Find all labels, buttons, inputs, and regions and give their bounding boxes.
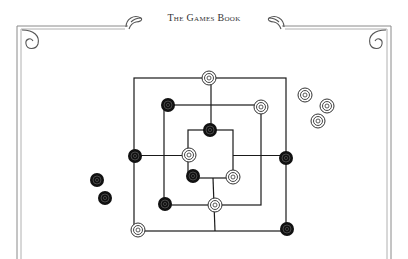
board-black-piece[interactable] <box>161 98 175 112</box>
board-black-piece[interactable] <box>280 222 294 236</box>
book-page: The Games Book <box>0 0 408 259</box>
board-white-piece[interactable] <box>131 223 145 237</box>
morris-board <box>0 0 408 259</box>
board-black-piece[interactable] <box>203 123 217 137</box>
board-white-piece[interactable] <box>182 148 196 162</box>
spare-white-piece[interactable] <box>298 88 312 102</box>
board-black-piece[interactable] <box>158 197 172 211</box>
spare-black-piece[interactable] <box>90 173 104 187</box>
board-black-piece[interactable] <box>186 169 200 183</box>
board-black-piece[interactable] <box>279 151 293 165</box>
spare-white-piece[interactable] <box>320 99 334 113</box>
board-white-piece[interactable] <box>208 198 222 212</box>
spare-black-piece[interactable] <box>98 191 112 205</box>
spare-white-piece[interactable] <box>311 114 325 128</box>
board-white-piece[interactable] <box>254 100 268 114</box>
board-white-piece[interactable] <box>226 170 240 184</box>
board-white-piece[interactable] <box>202 71 216 85</box>
board-black-piece[interactable] <box>128 149 142 163</box>
